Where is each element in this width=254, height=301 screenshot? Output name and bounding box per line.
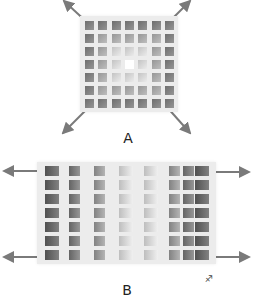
lattice-cell bbox=[183, 222, 194, 232]
lattice-cell bbox=[152, 60, 161, 69]
lattice-cell bbox=[138, 86, 147, 95]
lattice-cell bbox=[152, 99, 161, 108]
lattice-cell bbox=[112, 60, 121, 69]
panel-label-a: A bbox=[118, 130, 138, 146]
lattice-cell bbox=[69, 194, 80, 204]
lattice-cell bbox=[183, 194, 194, 204]
lattice-cell bbox=[85, 34, 94, 43]
lattice-cell bbox=[112, 99, 121, 108]
lattice-cell bbox=[69, 250, 80, 260]
lattice-cell bbox=[119, 236, 133, 246]
lattice-cell bbox=[125, 47, 134, 56]
lattice-cell bbox=[165, 99, 174, 108]
lattice-cell bbox=[94, 194, 105, 204]
lattice-cell bbox=[195, 222, 209, 232]
lattice-b bbox=[37, 162, 216, 264]
lattice-cell bbox=[183, 166, 194, 176]
lattice-cell bbox=[125, 60, 134, 69]
lattice-cell bbox=[195, 250, 209, 260]
lattice-cell bbox=[119, 194, 133, 204]
lattice-cell bbox=[85, 47, 94, 56]
lattice-cell bbox=[125, 99, 134, 108]
lattice-cell bbox=[69, 208, 80, 218]
lattice-cell bbox=[45, 250, 59, 260]
lattice-cell bbox=[165, 60, 174, 69]
lattice-cell bbox=[169, 180, 180, 190]
lattice-cell bbox=[144, 250, 158, 260]
lattice-cell bbox=[85, 73, 94, 82]
lattice-cell bbox=[85, 86, 94, 95]
lattice-cell bbox=[85, 21, 94, 30]
lattice-cell bbox=[45, 194, 59, 204]
lattice-cell bbox=[144, 180, 158, 190]
lattice-cell bbox=[169, 208, 180, 218]
lattice-cell bbox=[119, 250, 133, 260]
lattice-cell bbox=[152, 34, 161, 43]
lattice-cell bbox=[94, 180, 105, 190]
lattice-cell bbox=[45, 208, 59, 218]
lattice-cell bbox=[183, 180, 194, 190]
lattice-cell bbox=[112, 21, 121, 30]
lattice-cell bbox=[119, 208, 133, 218]
lattice-cell bbox=[45, 180, 59, 190]
lattice-cell bbox=[119, 222, 133, 232]
lattice-cell bbox=[94, 250, 105, 260]
lattice-cell bbox=[138, 34, 147, 43]
lattice-cell bbox=[183, 250, 194, 260]
lattice-cell bbox=[138, 73, 147, 82]
lattice-cell bbox=[152, 86, 161, 95]
lattice-cell bbox=[183, 208, 194, 218]
lattice-cell bbox=[144, 208, 158, 218]
lattice-cell bbox=[144, 166, 158, 176]
lattice-cell bbox=[169, 222, 180, 232]
lattice-cell bbox=[98, 47, 107, 56]
lattice-cell bbox=[183, 236, 194, 246]
lattice-cell bbox=[45, 222, 59, 232]
lattice-cell bbox=[152, 73, 161, 82]
lattice-cell bbox=[138, 60, 147, 69]
lattice-cell bbox=[98, 21, 107, 30]
lattice-cell bbox=[195, 180, 209, 190]
lattice-cell bbox=[169, 166, 180, 176]
panel-label-b: B bbox=[117, 282, 137, 298]
lattice-cell bbox=[85, 60, 94, 69]
lattice-cell bbox=[144, 236, 158, 246]
lattice-cell bbox=[125, 86, 134, 95]
lattice-cell bbox=[112, 86, 121, 95]
lattice-cell bbox=[69, 236, 80, 246]
lattice-cell bbox=[98, 60, 107, 69]
lattice-cell bbox=[112, 34, 121, 43]
lattice-cell bbox=[69, 166, 80, 176]
lattice-cell bbox=[94, 236, 105, 246]
lattice-cell bbox=[98, 34, 107, 43]
lattice-cell bbox=[125, 34, 134, 43]
lattice-cell bbox=[138, 47, 147, 56]
lattice-cell bbox=[138, 21, 147, 30]
lattice-cell bbox=[138, 99, 147, 108]
lattice-cell bbox=[165, 34, 174, 43]
lattice-cell bbox=[165, 21, 174, 30]
lattice-cell bbox=[125, 73, 134, 82]
lattice-cell bbox=[112, 47, 121, 56]
lattice-cell bbox=[165, 86, 174, 95]
lattice-cell bbox=[85, 99, 94, 108]
lattice-cell bbox=[125, 21, 134, 30]
lattice-cell bbox=[169, 236, 180, 246]
lattice-cell bbox=[98, 99, 107, 108]
lattice-cell bbox=[119, 166, 133, 176]
lattice-cell bbox=[195, 236, 209, 246]
lattice-cell bbox=[94, 222, 105, 232]
lattice-a bbox=[80, 16, 178, 112]
lattice-cell bbox=[195, 208, 209, 218]
corner-mark-icon: ♐ bbox=[205, 274, 213, 284]
lattice-cell bbox=[152, 47, 161, 56]
lattice-cell bbox=[165, 47, 174, 56]
lattice-cell bbox=[165, 73, 174, 82]
lattice-cell bbox=[69, 222, 80, 232]
lattice-cell bbox=[45, 236, 59, 246]
lattice-cell bbox=[112, 73, 121, 82]
lattice-cell bbox=[98, 73, 107, 82]
lattice-cell bbox=[144, 222, 158, 232]
lattice-cell bbox=[144, 194, 158, 204]
lattice-cell bbox=[69, 180, 80, 190]
